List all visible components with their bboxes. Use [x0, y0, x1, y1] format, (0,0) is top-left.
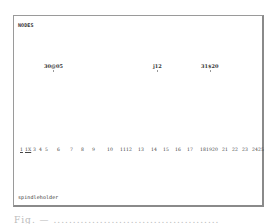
axis-tick: 19	[206, 147, 212, 152]
axis-tick: 1	[20, 147, 23, 152]
marker-dot	[210, 70, 211, 72]
axis-tick: 20	[212, 147, 218, 152]
axis-tick: 3	[33, 147, 36, 152]
axis-tick: 13	[138, 147, 144, 152]
axis-tick: 11	[120, 147, 126, 152]
axis-tick: 17	[187, 147, 193, 152]
axis-tick: 22	[232, 147, 238, 152]
axis-tick: 5	[45, 147, 48, 152]
axis-tick: 10	[107, 147, 113, 152]
axis-tick: 15	[163, 147, 169, 152]
position-axis: 11X3456789101112131415161718192021222324…	[20, 147, 260, 155]
axis-tick: 14	[151, 147, 157, 152]
axis-tick: 16	[175, 147, 181, 152]
nodes-label: NODES	[18, 22, 34, 28]
marker-label: 31$20	[201, 63, 218, 69]
marker-dot	[157, 70, 158, 72]
axis-tick: 4	[39, 147, 42, 152]
figure-caption: Fig. — .................................…	[14, 215, 264, 224]
axis-tick: 7	[70, 147, 73, 152]
axis-tick: 23	[242, 147, 248, 152]
marker-dot	[53, 70, 54, 72]
axis-tick: 8	[81, 147, 84, 152]
axis-tick: 21	[222, 147, 228, 152]
axis-tick: 9	[92, 147, 95, 152]
axis-tick: 25	[258, 147, 264, 152]
marker-label: j12	[153, 63, 162, 69]
axis-tick: 1X	[25, 147, 31, 152]
axis-tick: 24	[252, 147, 258, 152]
axis-tick: 12	[126, 147, 132, 152]
spindleholder-label: spindleholder	[18, 194, 58, 200]
axis-tick: 18	[200, 147, 206, 152]
marker-label: 30@05	[44, 63, 63, 69]
axis-tick: 6	[57, 147, 60, 152]
diagram-frame: NODES 30@05j1231$20 11X34567891011121314…	[13, 15, 264, 207]
